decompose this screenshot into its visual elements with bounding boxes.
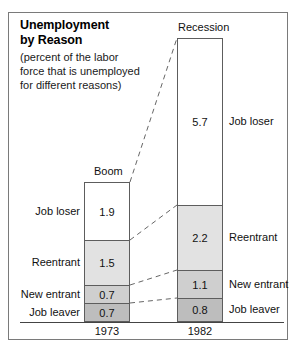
label-left-job-loser: Job loser	[16, 205, 80, 217]
segment-1982-reentrant: 2.2	[177, 205, 223, 270]
x-tick-label-1973: 1973	[84, 325, 130, 337]
connector-job-loser-top	[130, 38, 177, 182]
value-1982-new-entrant: 1.1	[192, 279, 207, 291]
connector-reentrant-top	[130, 205, 177, 240]
value-1982-job-loser: 5.7	[192, 116, 207, 128]
group-label-recession: Recession	[178, 21, 229, 33]
connector-job-leaver-top	[130, 298, 177, 303]
label-right-job-loser: Job loser	[229, 115, 274, 127]
connector-new-entrant-top	[130, 270, 177, 285]
figure: Unemployment by Reason (percent of the l…	[0, 0, 304, 348]
value-1982-job-leaver: 0.8	[192, 304, 207, 316]
value-1982-reentrant: 2.2	[192, 232, 207, 244]
segment-1982-new-entrant: 1.1	[177, 270, 223, 298]
label-left-job-leaver: Job leaver	[16, 306, 80, 318]
value-1973-job-leaver: 0.7	[99, 307, 114, 319]
value-1973-reentrant: 1.5	[99, 257, 114, 269]
x-tick-label-1982: 1982	[177, 325, 223, 337]
segment-1973-new-entrant: 0.7	[84, 285, 130, 303]
value-1973-job-loser: 1.9	[99, 206, 114, 218]
segment-1982-job-leaver: 0.8	[177, 298, 223, 322]
group-label-boom: Boom	[94, 165, 123, 177]
label-right-reentrant: Reentrant	[229, 231, 277, 243]
segment-1973-reentrant: 1.5	[84, 240, 130, 285]
label-left-new-entrant: New entrant	[6, 288, 80, 300]
x-axis-line	[20, 322, 284, 323]
label-left-reentrant: Reentrant	[16, 256, 80, 268]
label-right-new-entrant: New entrant	[229, 278, 288, 290]
value-1973-new-entrant: 0.7	[99, 289, 114, 301]
segment-1973-job-loser: 1.9	[84, 182, 130, 240]
plot-area: Boom Recession 1.9 1.5 0.7 0.7 5.7 2.2	[0, 0, 304, 348]
label-right-job-leaver: Job leaver	[229, 303, 280, 315]
segment-1973-job-leaver: 0.7	[84, 303, 130, 322]
segment-1982-job-loser: 5.7	[177, 38, 223, 205]
